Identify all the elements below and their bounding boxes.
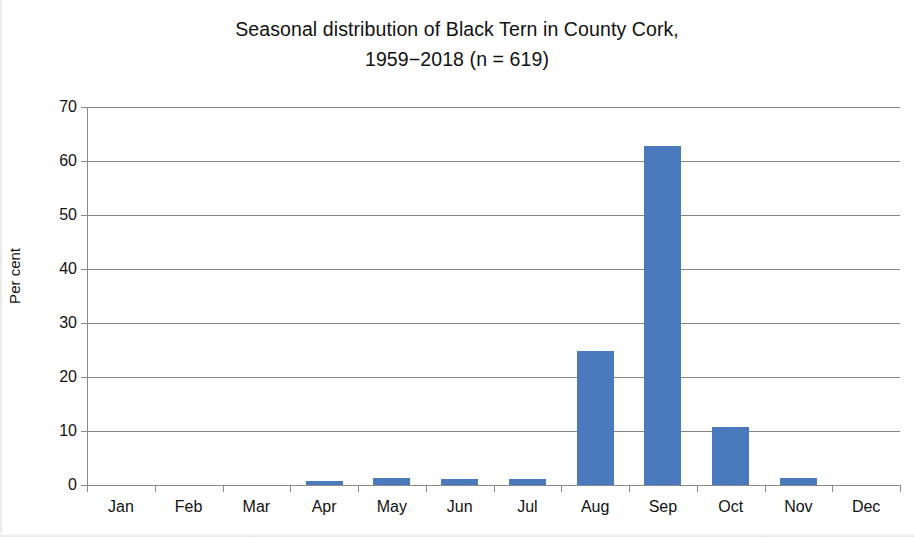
- bar-jul: [509, 479, 546, 485]
- bar-nov: [780, 478, 817, 485]
- gridline: [87, 161, 900, 162]
- chart-figure: Seasonal distribution of Black Tern in C…: [0, 0, 914, 537]
- x-tick-label-oct: Oct: [718, 498, 743, 516]
- x-tick-label-may: May: [377, 498, 407, 516]
- y-tick-label: 30: [59, 314, 77, 332]
- x-tick-mark: [87, 485, 88, 492]
- x-tick-label-sep: Sep: [649, 498, 677, 516]
- x-tick-label-apr: Apr: [312, 498, 337, 516]
- x-tick-label-nov: Nov: [784, 498, 812, 516]
- gridline: [87, 215, 900, 216]
- x-tick-label-mar: Mar: [243, 498, 271, 516]
- y-tick-mark: [81, 431, 87, 432]
- x-tick-mark: [494, 485, 495, 492]
- scan-edge-bottom: [0, 533, 914, 537]
- x-tick-mark: [223, 485, 224, 492]
- y-tick-label: 50: [59, 206, 77, 224]
- bar-jun: [441, 479, 478, 485]
- x-tick-label-dec: Dec: [852, 498, 880, 516]
- y-tick-label: 60: [59, 152, 77, 170]
- plot-surface: [87, 107, 900, 485]
- bar-oct: [712, 427, 749, 485]
- y-axis-line: [87, 107, 88, 486]
- x-tick-mark: [629, 485, 630, 492]
- bar-may: [373, 478, 410, 485]
- x-tick-mark: [561, 485, 562, 492]
- bar-sep: [644, 146, 681, 485]
- gridline: [87, 323, 900, 324]
- x-tick-mark: [155, 485, 156, 492]
- plot-area: 010203040506070: [87, 107, 900, 485]
- x-tick-label-jun: Jun: [447, 498, 473, 516]
- x-tick-mark: [832, 485, 833, 492]
- x-tick-label-aug: Aug: [581, 498, 609, 516]
- y-tick-mark: [81, 161, 87, 162]
- scan-edge-left: [0, 0, 3, 537]
- gridline: [87, 269, 900, 270]
- x-tick-mark: [900, 485, 901, 492]
- y-tick-label: 20: [59, 368, 77, 386]
- chart-title-line-2: 1959−2018 (n = 619): [0, 44, 914, 74]
- y-tick-mark: [81, 269, 87, 270]
- x-tick-label-feb: Feb: [175, 498, 203, 516]
- y-tick-mark: [81, 323, 87, 324]
- x-tick-mark: [697, 485, 698, 492]
- chart-title-line-1: Seasonal distribution of Black Tern in C…: [235, 18, 679, 40]
- bar-aug: [577, 351, 614, 485]
- x-tick-label-jan: Jan: [108, 498, 134, 516]
- y-tick-mark: [81, 215, 87, 216]
- gridline: [87, 377, 900, 378]
- gridline: [87, 107, 900, 108]
- y-tick-label: 10: [59, 422, 77, 440]
- y-tick-mark: [81, 107, 87, 108]
- x-axis-labels: JanFebMarAprMayJunJulAugSepOctNovDec: [87, 498, 900, 522]
- x-tick-mark: [426, 485, 427, 492]
- y-tick-label: 0: [68, 476, 77, 494]
- x-tick-mark: [290, 485, 291, 492]
- y-tick-label: 70: [59, 98, 77, 116]
- bar-apr: [306, 481, 343, 485]
- x-tick-label-jul: Jul: [517, 498, 537, 516]
- chart-title: Seasonal distribution of Black Tern in C…: [0, 14, 914, 74]
- x-tick-mark: [765, 485, 766, 492]
- gridline: [87, 431, 900, 432]
- y-tick-label: 40: [59, 260, 77, 278]
- x-tick-mark: [358, 485, 359, 492]
- y-axis-title: Per cent: [6, 248, 30, 304]
- y-tick-mark: [81, 377, 87, 378]
